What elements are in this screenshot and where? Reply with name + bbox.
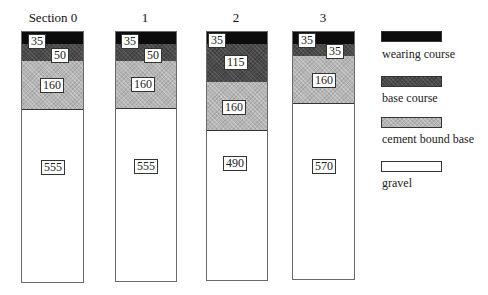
legend-swatch-wearing-course — [381, 31, 442, 42]
section-3-cement-value: 160 — [312, 73, 336, 88]
section-3-gravel-value: 570 — [312, 159, 336, 174]
section-0-gravel — [22, 110, 83, 282]
section-0-column: 35 50 160 555 — [21, 31, 84, 283]
section-3-base-value: 35 — [326, 44, 344, 59]
section-2-title: 2 — [216, 11, 256, 25]
section-2-gravel-value: 490 — [223, 156, 247, 171]
section-3-gravel — [293, 104, 354, 279]
section-2-wearing-value: 35 — [208, 33, 226, 48]
section-1-wearing-value: 35 — [121, 34, 139, 49]
section-0-wearing-value: 35 — [28, 34, 46, 49]
legend-label-gravel: gravel — [382, 177, 412, 190]
section-0-cement-value: 160 — [40, 78, 64, 93]
section-1-gravel-value: 555 — [134, 159, 158, 174]
legend-label-cement-bound-base: cement bound base — [382, 133, 474, 146]
section-1-title: 1 — [125, 11, 165, 25]
section-2-base-value: 115 — [224, 55, 248, 70]
section-1-column: 35 50 160 555 — [115, 31, 177, 282]
section-0-title: Section 0 — [18, 11, 88, 25]
section-1-gravel — [116, 109, 176, 281]
legend-swatch-cement-bound-base — [381, 117, 442, 128]
legend-label-base-course: base course — [382, 92, 438, 105]
section-0-base-value: 50 — [51, 48, 69, 63]
section-3-title: 3 — [303, 11, 343, 25]
section-3-wearing-value: 35 — [298, 33, 316, 48]
section-1-cement-value: 160 — [131, 77, 155, 92]
section-2-column: 35 115 160 490 — [206, 31, 268, 281]
section-1-base-value: 50 — [144, 48, 162, 63]
legend-swatch-gravel — [381, 161, 442, 172]
section-0-gravel-value: 555 — [41, 160, 65, 175]
legend-swatch-base-course — [381, 76, 442, 87]
legend-label-wearing-course: wearing course — [382, 48, 455, 61]
section-2-cement-value: 160 — [222, 100, 246, 115]
section-3-column: 35 35 160 570 — [292, 31, 355, 280]
section-2-gravel — [207, 131, 267, 280]
